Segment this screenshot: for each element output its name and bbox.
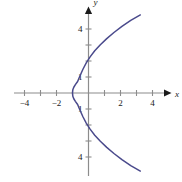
- y-axis-name-label: y: [93, 0, 98, 7]
- x-tick-label: 4: [150, 98, 155, 108]
- x-tick-label: −4: [20, 98, 30, 108]
- plot-background: [0, 0, 182, 182]
- parabola-figure: −4−2244114 xy: [0, 0, 182, 182]
- x-tick-label: 2: [118, 98, 123, 108]
- x-tick-label: −2: [52, 98, 62, 108]
- x-axis-name-label: x: [174, 89, 179, 99]
- y-tick-label: 4: [78, 152, 83, 162]
- y-tick-label: 4: [78, 24, 83, 34]
- coordinate-plot: −4−2244114 xy: [0, 0, 182, 182]
